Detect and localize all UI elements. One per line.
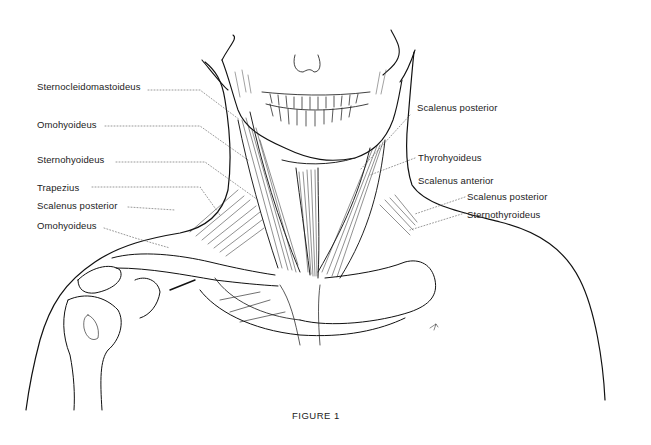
label-sternohyoideus: Sternohyoideus [37,154,104,165]
skeleton-drawing [64,254,438,410]
label-sternothyroideus: Sternothyroideus [467,209,540,220]
anatomy-illustration [0,0,651,445]
label-trapezius: Trapezius [37,182,79,193]
figure-caption: FIGURE 1 [292,410,340,421]
label-omohyoideus-lower: Omohyoideus [37,220,97,231]
label-scalenus-posterior-left: Scalenus posterior [37,200,117,211]
label-thyrohyoideus: Thyrohyoideus [418,152,482,163]
label-scalenus-posterior-right-upper: Scalenus posterior [417,102,497,113]
label-omohyoideus-upper: Omohyoideus [37,119,97,130]
head-jaw-drawing [202,30,415,160]
label-sternocleidomastoideus: Sternocleidomastoideus [37,81,141,92]
neck-muscles [190,112,417,278]
label-scalenus-posterior-right-lower: Scalenus posterior [467,191,547,202]
label-scalenus-anterior: Scalenus anterior [418,175,494,186]
